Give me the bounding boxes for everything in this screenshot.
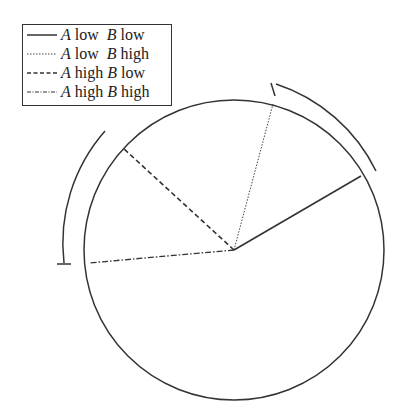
radius-a-high-b-high — [89, 250, 234, 263]
radius-a-high-b-low — [123, 148, 234, 250]
outer-arc-right — [276, 84, 376, 171]
legend-item-a-high-b-low: A high B low — [27, 64, 145, 82]
dash-dot-line-icon — [27, 87, 57, 97]
legend-var-b: B — [107, 26, 117, 43]
legend-item-a-low-b-low: A low B low — [27, 26, 145, 44]
legend: A low B low A low B high A high B low A … — [22, 24, 172, 106]
outer-arc-right-tick — [271, 83, 275, 96]
radius-a-low-b-high — [234, 104, 273, 250]
legend-item-a-low-b-high: A low B high — [27, 45, 149, 63]
radius-a-low-b-low — [234, 176, 361, 250]
dotted-line-icon — [27, 49, 57, 59]
legend-item-a-high-b-high: A high B high — [27, 83, 149, 101]
legend-var-a: A — [61, 26, 71, 43]
solid-line-icon — [27, 30, 57, 40]
dashed-line-icon — [27, 68, 57, 78]
